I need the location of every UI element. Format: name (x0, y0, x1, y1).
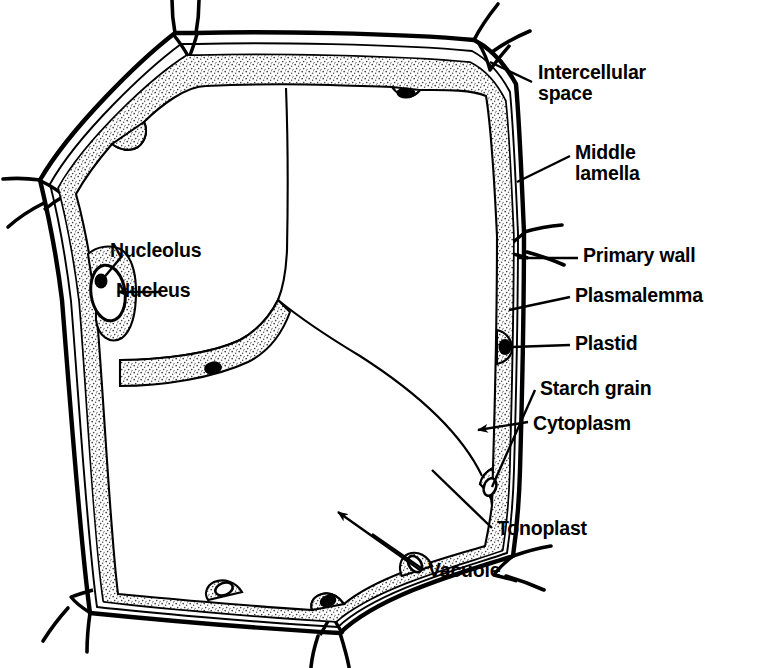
cytoplasmic-strand-left-body (120, 300, 290, 386)
arrow-vacuole (338, 512, 420, 570)
plant-cell-diagram (0, 0, 760, 668)
label-nucleus: Nucleus (116, 280, 190, 301)
leader-middle-lamella (517, 156, 570, 182)
leader-plastid (512, 345, 570, 347)
label-vacuole: Vacuole (428, 560, 500, 581)
label-cytoplasm: Cytoplasm (533, 413, 631, 434)
label-middle-lamella: Middlelamella (575, 142, 640, 184)
tonoplast-line (76, 84, 497, 610)
label-plasmalemma: Plasmalemma (575, 285, 703, 306)
label-starch-grain: Starch grain (540, 378, 651, 399)
cytoplasmic-strand-vertical (278, 88, 288, 300)
plastid-top (397, 88, 416, 99)
label-plastid: Plastid (575, 333, 638, 354)
label-primary-wall: Primary wall (583, 245, 696, 266)
figure-canvas: Intercellularspace Middlelamella Primary… (0, 0, 760, 668)
label-nucleolus: Nucleolus (110, 240, 201, 261)
label-intercellular-space: Intercellularspace (538, 62, 646, 104)
plastid-right (499, 339, 512, 355)
label-tonoplast: Tonoplast (497, 518, 587, 539)
cytoplasmic-strand-right (278, 300, 482, 476)
